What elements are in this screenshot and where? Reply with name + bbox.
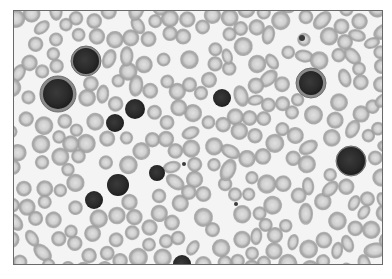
platelet-dot [182,162,186,166]
platelet-dot [234,202,238,206]
red-blood-cell [14,144,26,160]
white-blood-cell [149,165,165,181]
red-blood-cell [126,209,142,225]
white-blood-cell [85,191,103,209]
red-blood-cell [160,75,174,89]
red-blood-cell [231,254,245,265]
white-blood-cell [107,174,129,196]
red-blood-cell [52,232,66,246]
red-blood-cell [99,156,113,170]
red-blood-cell [120,46,133,66]
white-blood-cell [40,76,76,112]
micrograph-frame [13,10,383,265]
red-blood-cell [28,211,43,226]
red-blood-cell [248,78,264,94]
red-blood-cell [66,174,84,192]
red-blood-cell [109,207,126,224]
white-blood-cell [71,46,101,76]
red-blood-cell [298,156,315,173]
red-blood-cell [374,46,383,59]
red-blood-cell [299,204,312,225]
red-blood-cell [61,163,74,176]
white-blood-cell [213,89,231,107]
red-blood-cell [228,187,242,201]
white-blood-cell [125,99,145,119]
red-blood-cell [35,64,49,78]
blood-smear-image [14,11,383,265]
white-blood-cell [336,146,366,176]
platelet-dot [299,35,305,41]
red-blood-cell [256,111,271,126]
red-blood-cell [247,128,262,143]
white-blood-cell [296,68,326,98]
white-blood-cell [106,114,124,132]
red-blood-cell [181,185,196,200]
